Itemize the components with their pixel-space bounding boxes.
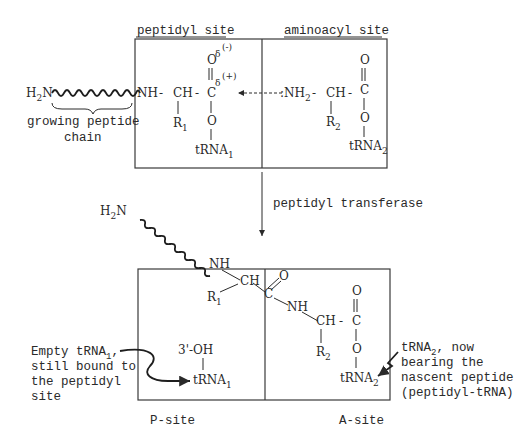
aminoacyl-residue: :NH2 - CH - R2 O C O tRNA2 xyxy=(280,53,388,156)
carbonyl-oxygen: O xyxy=(360,53,370,67)
empty-trna-annotation: Empty tRNA1, still bound to the peptidyl… xyxy=(31,345,190,404)
zigzag-pointer-arrow xyxy=(378,352,398,376)
r1-group: R1 xyxy=(173,116,188,133)
diagram-canvas: peptidyl site aminoacyl site H2N growing… xyxy=(0,0,525,442)
peptidyl-transferase-label: peptidyl transferase xyxy=(273,197,423,211)
annotation-line: bearing the xyxy=(401,356,484,370)
peptidyl-residue: NH - CH - R1 O δ (-) δ (+) C O tRNA1 xyxy=(137,42,237,160)
a-site-label: A-site xyxy=(339,414,384,428)
r1-group: R1 xyxy=(207,290,222,307)
bottom-panel: H2N NH CH R1 C O NH CH - R2 O C O tRNA2 … xyxy=(31,204,514,428)
transition: peptidyl transferase xyxy=(262,172,423,236)
peptidyl-trna-annotation: tRNA2, now bearing the nascent peptide (… xyxy=(378,341,514,400)
carbonyl-carbon: C xyxy=(360,83,369,97)
bond-dash: - xyxy=(195,86,199,100)
r2-group: R2 xyxy=(326,115,341,132)
h2n-label: H2N xyxy=(100,204,127,221)
amino-group: :NH2 xyxy=(280,86,311,103)
partial-positive-charge: (+) xyxy=(222,71,237,81)
growing-chain-label-line2: chain xyxy=(64,131,102,145)
ester-oxygen: O xyxy=(207,114,217,128)
ester-oxygen: O xyxy=(360,111,370,125)
bond-nh-ch xyxy=(222,270,240,280)
bond-ch-r1 xyxy=(220,284,238,292)
3-prime-oh: 3'-OH xyxy=(178,343,213,357)
peptide-bond-formation-diagram: peptidyl site aminoacyl site H2N growing… xyxy=(0,0,525,442)
wavy-chain-line xyxy=(52,90,140,96)
trna2-label: tRNA2 xyxy=(349,139,388,156)
annotation-line: site xyxy=(31,390,61,404)
ch-group: CH xyxy=(326,86,346,100)
peptide-bond xyxy=(274,298,288,305)
partial-negative-charge: (-) xyxy=(222,42,232,52)
growing-chain-label-line1: growing peptide xyxy=(27,115,140,129)
bond-dash: - xyxy=(348,86,352,100)
nh-group: NH xyxy=(287,300,308,314)
carbonyl-carbon: C xyxy=(207,86,216,100)
nh-group: NH xyxy=(137,86,158,100)
nh-group: NH xyxy=(209,257,230,271)
top-panel: peptidyl site aminoacyl site H2N growing… xyxy=(26,24,389,168)
peptidyl-site-label: peptidyl site xyxy=(137,24,235,38)
carbonyl-oxygen: O xyxy=(279,269,289,283)
delta-minus: δ xyxy=(215,49,220,59)
carbonyl-oxygen: O xyxy=(352,284,362,298)
r2-group: R2 xyxy=(316,345,331,362)
wavy-chain-line xyxy=(140,220,210,276)
aminoacyl-site-label: aminoacyl site xyxy=(284,24,389,38)
growing-peptide-chain: H2N growing peptide chain xyxy=(26,86,140,145)
trna1-label: tRNA1 xyxy=(193,373,232,390)
bond-dash: - xyxy=(159,86,163,100)
ch-group: CH xyxy=(316,314,336,328)
trna2-label: tRNA2 xyxy=(340,371,379,388)
annotation-line: the peptidyl xyxy=(31,375,121,389)
annotation-line: still bound to xyxy=(31,360,136,374)
h2n-label: H2N xyxy=(26,86,53,103)
chain-brace xyxy=(52,103,132,114)
p-site-label: P-site xyxy=(150,414,195,428)
bond-dash: - xyxy=(339,314,343,328)
trna1-label: tRNA1 xyxy=(195,143,234,160)
ester-oxygen: O xyxy=(352,342,362,356)
carbonyl-carbon: C xyxy=(352,314,361,328)
ch-group: CH xyxy=(173,86,193,100)
annotation-line: nascent peptide xyxy=(401,371,514,385)
bond-dash: - xyxy=(312,86,316,100)
double-bond-line xyxy=(268,278,279,288)
annotation-line: (peptidyl-tRNA) xyxy=(401,386,514,400)
